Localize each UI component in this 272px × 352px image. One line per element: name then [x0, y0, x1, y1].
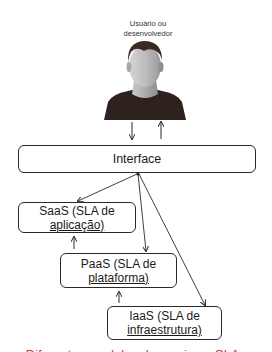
- connector-layer: [0, 0, 272, 352]
- saas-label-line2: aplicação): [39, 218, 114, 232]
- paas-label-line1: PaaS (SLA de: [81, 257, 156, 271]
- interface-box: Interface: [18, 145, 256, 173]
- paas-label-line2: plataforma): [81, 271, 156, 285]
- figure-caption: Diferentes modelos de serviço e SLAs: [0, 344, 272, 352]
- saas-box: SaaS (SLA de aplicação): [18, 202, 136, 233]
- paas-box: PaaS (SLA de plataforma): [60, 253, 177, 288]
- iaas-label-line1: IaaS (SLA de: [127, 309, 202, 323]
- interface-label: Interface: [113, 152, 162, 166]
- iaas-box: IaaS (SLA de infraestrutura): [107, 306, 222, 340]
- arrow-interface-to-saas: [78, 174, 137, 201]
- iaas-label-line2: infraestrutura): [127, 323, 202, 337]
- saas-label-line1: SaaS (SLA de: [39, 204, 114, 218]
